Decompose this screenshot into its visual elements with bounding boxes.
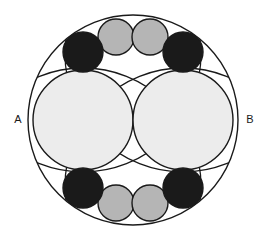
large-circle-left	[33, 70, 133, 170]
large-circle-right	[133, 70, 233, 170]
figure-root: A B	[0, 0, 268, 236]
circle-packing-diagram: A B	[0, 0, 268, 236]
dark-circle-bottom-right	[163, 168, 203, 208]
dark-circle-top-left	[63, 32, 103, 72]
dark-circle-top-right	[163, 32, 203, 72]
point-label-b: B	[246, 113, 253, 125]
point-label-a: A	[14, 113, 22, 125]
dark-circle-bottom-left	[63, 168, 103, 208]
